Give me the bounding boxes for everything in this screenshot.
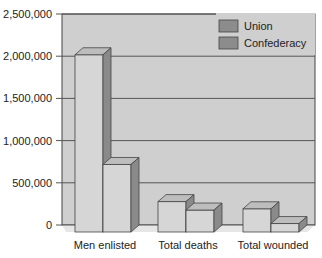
bar-chart: 0500,0001,000,0001,500,0002,000,0002,500… <box>0 0 322 258</box>
legend-swatch-confederacy <box>219 37 238 49</box>
x-category-label: Men enlisted <box>74 239 136 251</box>
bar-confederacy-0 <box>103 157 139 232</box>
legend: UnionConfederacy <box>216 13 315 55</box>
y-tick-label: 1,000,000 <box>3 135 52 147</box>
legend-label-confederacy: Confederacy <box>244 37 307 49</box>
x-category-label: Total deaths <box>158 239 218 251</box>
y-axis-tick-labels: 0500,0001,000,0001,500,0002,000,0002,500… <box>3 8 52 231</box>
legend-label-union: Union <box>244 20 273 32</box>
x-category-label: Total wounded <box>238 239 309 251</box>
bar-confederacy-1 <box>186 203 222 232</box>
y-tick-label: 0 <box>46 219 52 231</box>
y-tick-label: 2,000,000 <box>3 50 52 62</box>
y-tick-label: 1,500,000 <box>3 92 52 104</box>
y-tick-label: 500,000 <box>12 177 52 189</box>
x-axis-category-labels: Men enlistedTotal deathsTotal wounded <box>74 239 309 251</box>
y-tick-label: 2,500,000 <box>3 8 52 20</box>
bar-confederacy-2 <box>271 217 307 232</box>
legend-swatch-union <box>219 20 238 32</box>
